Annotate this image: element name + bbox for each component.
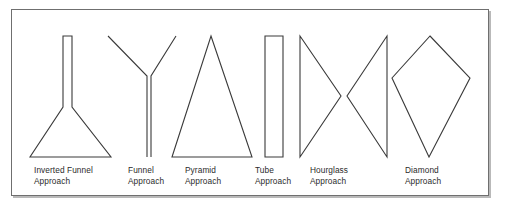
label-line-2: Approach: [310, 176, 348, 187]
figure-root: Inverted Funnel Approach Funnel Approach…: [0, 0, 505, 214]
label-line-2: Approach: [185, 176, 221, 187]
label-line-2: Approach: [34, 176, 93, 187]
label-line-1: Funnel: [128, 165, 164, 176]
label-line-2: Approach: [128, 176, 164, 187]
shape-label-pyramid: Pyramid Approach: [185, 165, 221, 187]
shape-label-funnel: Funnel Approach: [128, 165, 164, 187]
shape-label-diamond: Diamond Approach: [405, 165, 441, 187]
shape-label-inverted-funnel: Inverted Funnel Approach: [34, 165, 93, 187]
label-line-1: Inverted Funnel: [34, 165, 93, 176]
label-line-1: Pyramid: [185, 165, 221, 176]
label-line-1: Hourglass: [310, 165, 348, 176]
label-line-2: Approach: [255, 176, 291, 187]
label-line-1: Tube: [255, 165, 291, 176]
shape-label-tube: Tube Approach: [255, 165, 291, 187]
label-line-2: Approach: [405, 176, 441, 187]
label-line-1: Diamond: [405, 165, 441, 176]
labels-layer: Inverted Funnel Approach Funnel Approach…: [0, 0, 505, 214]
shape-label-hourglass: Hourglass Approach: [310, 165, 348, 187]
